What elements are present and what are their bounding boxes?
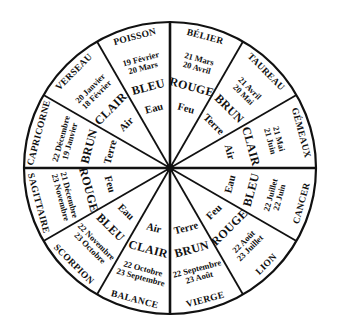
color-label: ROUGE: [168, 74, 216, 99]
element-label: Eau: [222, 174, 237, 194]
color-label: CLAIR: [239, 125, 263, 167]
sign-name: CANCER: [291, 181, 312, 225]
sign-name: BÉLIER: [186, 26, 225, 46]
center-hub: [166, 164, 174, 172]
element-label: Feu: [103, 174, 118, 193]
element-label: Air: [145, 221, 163, 236]
element-label: Eau: [144, 100, 164, 115]
sign-name: POISSON: [112, 26, 157, 47]
element-label: Air: [223, 143, 238, 161]
color-label: BLEU: [240, 172, 262, 208]
sign-name: GÉMEAUX: [290, 106, 314, 159]
color-label: BLEU: [130, 76, 166, 98]
element-label: Feu: [204, 202, 224, 222]
color-label: BRUN: [78, 127, 101, 165]
color-label: ROUGE: [76, 166, 101, 214]
sign-name: LION: [254, 252, 279, 277]
element-label: Eau: [116, 202, 137, 223]
sign-name: BALANCE: [110, 288, 159, 310]
zodiac-wheel: BÉLIER21 Mars20 AvrilROUGEFeuTAUREAU21 A…: [0, 0, 339, 327]
sign-name: SAGITTAIRE: [26, 172, 52, 234]
element-label: Terre: [201, 112, 226, 137]
element-label: Air: [117, 115, 136, 134]
element-label: Feu: [176, 101, 195, 116]
color-label: CLAIR: [127, 237, 169, 261]
color-label: BRUN: [173, 238, 211, 261]
element-label: Terre: [102, 138, 119, 165]
element-label: Terre: [173, 219, 200, 236]
